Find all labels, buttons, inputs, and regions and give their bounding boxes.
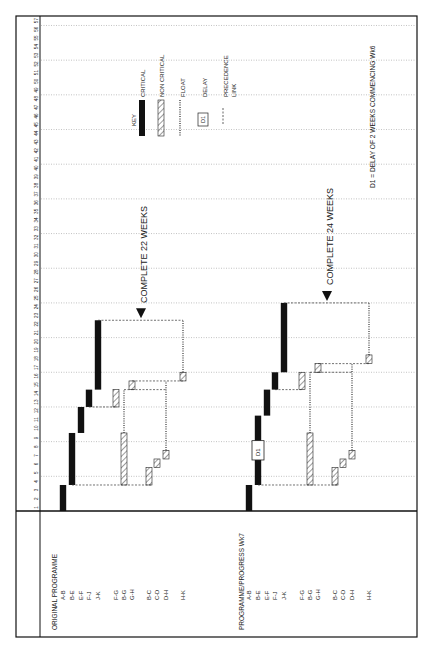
activity-label: B-E [69, 590, 75, 600]
delay-footnote: D1 = DELAY OF 2 WEEKS COMMENCING Wk6 [369, 45, 376, 188]
week-tick-label: 33 [34, 226, 39, 232]
non-critical-bar [315, 364, 321, 373]
diagram-canvas: 1234567891011121314151617181920212223242… [0, 0, 430, 651]
week-tick-label: 39 [34, 174, 39, 180]
legend-float-label: FLOAT [180, 78, 186, 97]
week-tick-label: 26 [34, 286, 39, 292]
week-tick-label: 18 [34, 356, 39, 362]
completion-arrow-icon [322, 291, 332, 301]
week-tick-label: 31 [34, 243, 39, 249]
completion-marker-original: COMPLETE 22 WEEKS [136, 206, 149, 318]
critical-bar [264, 390, 270, 416]
week-tick-label: 43 [34, 139, 39, 145]
gantt-diagram: 1234567891011121314151617181920212223242… [0, 0, 430, 651]
week-tick-label: 20 [34, 338, 39, 344]
non-critical-bar [180, 372, 186, 381]
week-tick-label: 1 [34, 506, 39, 509]
critical-bar [60, 485, 66, 511]
week-tick-label: 44 [34, 130, 39, 136]
week-tick-label: 30 [34, 252, 39, 258]
critical-swatch [139, 100, 145, 136]
activity-label: A-B [60, 590, 66, 600]
activity-label: C-D [154, 590, 160, 600]
week-tick-label: 55 [34, 35, 39, 41]
critical-bar [86, 390, 92, 407]
non-critical-bar [349, 450, 355, 459]
activity-label: A-B [246, 590, 252, 600]
week-tick-label: 45 [34, 122, 39, 128]
activity-label: E-F [78, 590, 84, 600]
activity-label: G-H [315, 589, 321, 600]
activity-label: B-G [307, 589, 313, 600]
week-tick-label: 23 [34, 312, 39, 318]
week-tick-label: 15 [34, 382, 39, 388]
activity-label: D-H [349, 590, 355, 600]
activity-label: F-J [272, 592, 278, 600]
week-tick-label: 24 [34, 304, 39, 310]
week-tick-label: 11 [34, 417, 39, 422]
non-critical-bar [154, 459, 160, 468]
non-critical-bar [299, 372, 305, 389]
activity-label: G-H [129, 589, 135, 600]
completion-label-original: COMPLETE 22 WEEKS [139, 206, 149, 303]
row-labels: A-BB-EE-FF-JJ-KF-GB-GG-HB-CC-DD-HH-KA-BB… [60, 589, 372, 600]
week-tick-label: 57 [34, 18, 39, 24]
bars-layer: D1 [60, 303, 372, 511]
week-tick-label: 29 [34, 260, 39, 266]
week-tick-label: 41 [34, 156, 39, 162]
week-tick-label: 6 [34, 462, 39, 465]
legend-precedence-label-line1: PRECEDENCE [223, 55, 229, 97]
non-critical-bar [340, 459, 346, 468]
activity-label: F-J [86, 592, 92, 600]
week-tick-label: 14 [34, 390, 39, 396]
outer-frame [16, 16, 417, 637]
activity-label: E-F [264, 590, 270, 600]
week-tick-label: 7 [34, 454, 39, 457]
week-tick-label: 28 [34, 269, 39, 275]
legend-non-critical-label: NON CRITICAL [159, 54, 165, 97]
non-critical-bar [307, 433, 313, 485]
activity-label: B-E [255, 590, 261, 600]
critical-bar [78, 407, 84, 433]
week-tick-label: 48 [34, 96, 39, 102]
activity-label: B-C [146, 590, 152, 600]
legend-delay-label: DELAY [202, 78, 208, 97]
original-programme-title: ORIGINAL PROGRAMME [51, 553, 58, 630]
week-tick-label: 8 [34, 445, 39, 448]
critical-bar [281, 303, 287, 372]
activity-label: F-G [113, 590, 119, 600]
critical-bar [272, 372, 278, 389]
non-critical-bar [163, 450, 169, 459]
critical-bar [246, 485, 252, 511]
completion-marker-progress: COMPLETE 24 WEEKS [322, 188, 335, 301]
week-tick-label: 2 [34, 497, 39, 500]
week-tick-label: 51 [34, 70, 39, 76]
completion-label-progress: COMPLETE 24 WEEKS [325, 188, 335, 285]
legend-critical-label: CRITICAL [140, 69, 146, 97]
non-critical-bar [146, 468, 152, 485]
week-tick-label: 35 [34, 208, 39, 214]
week-tick-label: 17 [34, 364, 39, 370]
week-tick-label: 10 [34, 425, 39, 431]
week-tick-label: 50 [34, 78, 39, 84]
week-tick-label: 16 [34, 373, 39, 379]
week-tick-label: 49 [34, 87, 39, 93]
week-tick-label: 37 [34, 191, 39, 197]
week-tick-label: 27 [34, 278, 39, 284]
week-tick-label: 12 [34, 408, 39, 414]
week-tick-label: 52 [34, 61, 39, 67]
activity-label: H-K [180, 590, 186, 600]
completion-arrow-icon [136, 308, 146, 318]
week-tick-label: 56 [34, 26, 39, 32]
activity-label: H-K [366, 590, 372, 600]
week-tick-label: 32 [34, 234, 39, 240]
activity-label: C-D [340, 590, 346, 600]
week-tick-label: 54 [34, 44, 39, 50]
week-tick-label: 13 [34, 399, 39, 405]
week-tick-label: 40 [34, 165, 39, 171]
non-critical-bar [121, 433, 127, 485]
week-tick-label: 46 [34, 113, 39, 119]
week-tick-label: 3 [34, 488, 39, 491]
non-critical-bar [129, 381, 135, 390]
week-tick-label: 34 [34, 217, 39, 223]
